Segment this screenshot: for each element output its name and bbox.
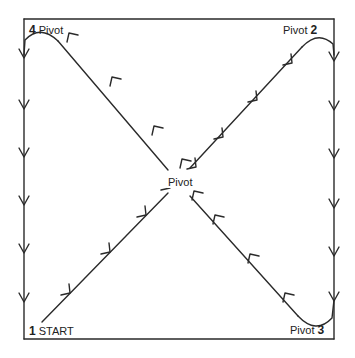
- corner-1-number: 1: [29, 324, 36, 338]
- diag-up-left-arrows-upper: [67, 33, 191, 168]
- center-pivot-label: Pivot: [167, 176, 193, 188]
- diag-up-right-arrows-upper: [187, 54, 292, 169]
- corner-3-text: Pivot: [290, 324, 314, 336]
- corner-4-label: 4 Pivot: [29, 24, 63, 36]
- corner-3-number: 3: [318, 323, 325, 337]
- corner-2-number: 2: [311, 23, 318, 37]
- diag-up-right-arrows-lower: [61, 179, 170, 295]
- diagonal-3-to-center: [190, 196, 298, 316]
- corner-1-text: START: [39, 325, 74, 337]
- corner-4-text: Pivot: [39, 24, 63, 36]
- pivot-3-turn: [298, 300, 334, 326]
- corner-1-label: 1 START: [29, 325, 74, 337]
- corner-4-number: 4: [29, 23, 36, 37]
- diagonal-start-to-center: [42, 193, 168, 322]
- corner-2-text: Pivot: [283, 24, 307, 36]
- corner-3-label: Pivot 3: [290, 324, 324, 336]
- diag-up-left-arrows-lower: [192, 191, 294, 302]
- corner-2-label: Pivot 2: [283, 24, 317, 36]
- diagonal-center-to-4: [58, 41, 168, 170]
